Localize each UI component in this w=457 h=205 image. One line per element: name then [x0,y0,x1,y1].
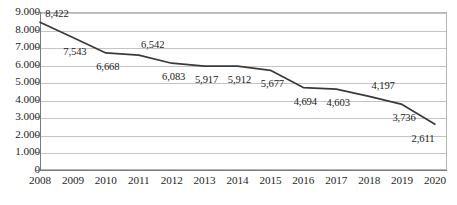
data-point-label: 8,422 [45,8,68,19]
data-point-label: 5,677 [261,78,284,89]
data-point-label: 4,603 [327,97,350,108]
line-chart: 9.0008.0007.0006.0005.0004.0003.0002.000… [0,0,457,205]
data-point-label: 5,917 [195,74,218,85]
data-point-label: 4,197 [371,80,394,91]
data-point-label: 5,912 [228,74,251,85]
data-point-label: 4,694 [294,95,317,106]
data-point-label: 2,611 [412,133,435,144]
data-point-label: 6,083 [162,71,185,82]
series-line [0,0,457,205]
data-point-label: 6,542 [141,39,164,50]
data-point-label: 3,736 [392,112,415,123]
data-point-label: 7,543 [63,45,86,56]
caption-clip [0,197,457,205]
data-point-label: 6,668 [96,60,119,71]
